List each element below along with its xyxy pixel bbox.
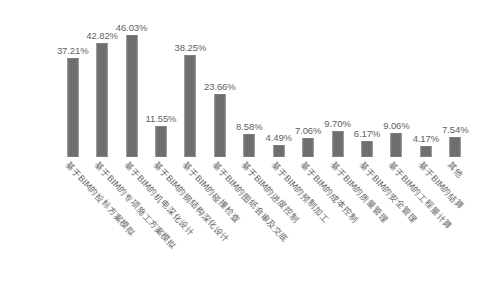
bar-group: 4.17% (412, 8, 440, 157)
plot-area: 37.21%42.82%46.03%11.55%38.25%23.66%8.58… (58, 8, 470, 157)
category-label-slot: 基于BIM的工程量计算 (382, 158, 410, 278)
category-label-slot: 基于BIM的碰撞检查 (176, 158, 204, 278)
bar-value-label: 6.17% (354, 128, 380, 139)
bar[interactable] (332, 131, 343, 157)
category-label-slot: 基于BIM的钢结构深化设计 (147, 158, 175, 278)
bar-group: 4.49% (265, 8, 293, 157)
category-label: 其他 (446, 160, 466, 180)
bar-value-label: 7.06% (295, 125, 321, 136)
bar-group: 37.21% (59, 8, 87, 157)
bar-value-label: 37.21% (57, 45, 89, 56)
bar-group: 11.55% (147, 8, 175, 157)
bar[interactable] (420, 146, 431, 157)
bar[interactable] (67, 58, 78, 157)
bar[interactable] (273, 145, 284, 157)
bar-value-label: 23.66% (204, 81, 236, 92)
bar-value-label: 11.55% (146, 113, 177, 124)
bar-group: 7.06% (294, 8, 322, 157)
bar-group: 42.82% (88, 8, 116, 157)
category-label-slot: 基于BIM的质量管理 (324, 158, 352, 278)
category-label-slot: 基于BIM的结算 (412, 158, 440, 278)
category-label-slot: 基于BIM的预制加工 (265, 158, 293, 278)
bar-value-label: 9.06% (383, 120, 409, 131)
bar[interactable] (362, 141, 373, 157)
bar-group: 6.17% (353, 8, 381, 157)
bar[interactable] (126, 35, 137, 157)
bar-group: 46.03% (118, 8, 146, 157)
bar-group: 8.58% (235, 8, 263, 157)
category-label-slot: 基于BIM的安全管理 (353, 158, 381, 278)
category-label-slot: 其他 (441, 158, 469, 278)
bar[interactable] (97, 43, 108, 157)
category-label-slot: 基于BIM的成本控制 (294, 158, 322, 278)
bar-value-label: 46.03% (116, 22, 148, 33)
bar-value-label: 42.82% (86, 30, 118, 41)
bar-value-label: 9.70% (324, 118, 350, 129)
bar-group: 9.06% (382, 8, 410, 157)
bar-value-label: 4.17% (413, 133, 439, 144)
bar-value-label: 4.49% (265, 132, 291, 143)
bar[interactable] (450, 137, 461, 157)
bar-group: 23.66% (206, 8, 234, 157)
bar-group: 9.70% (324, 8, 352, 157)
bar[interactable] (185, 55, 196, 157)
bar[interactable] (391, 133, 402, 157)
category-label-slot: 基于BIM的进度控制 (235, 158, 263, 278)
bar-chart: 37.21%42.82%46.03%11.55%38.25%23.66%8.58… (0, 0, 487, 281)
category-label-slot: 基于BIM的图纸会审及交底 (206, 158, 234, 278)
category-label-slot: 基于BIM的投标方案模拟 (59, 158, 87, 278)
bar[interactable] (244, 134, 255, 157)
bar-group: 38.25% (176, 8, 204, 157)
category-label-slot: 基于BIM的专项施工方案模拟 (88, 158, 116, 278)
bar-value-label: 8.58% (236, 121, 262, 132)
bar-group: 7.54% (441, 8, 469, 157)
bar-value-label: 7.54% (442, 124, 468, 135)
category-label-slot: 基于BIM的机电深化设计 (118, 158, 146, 278)
bar[interactable] (156, 126, 167, 157)
bar[interactable] (303, 138, 314, 157)
category-axis-labels: 基于BIM的投标方案模拟基于BIM的专项施工方案模拟基于BIM的机电深化设计基于… (58, 158, 470, 278)
bar[interactable] (214, 94, 225, 157)
bar-value-label: 38.25% (175, 42, 207, 53)
